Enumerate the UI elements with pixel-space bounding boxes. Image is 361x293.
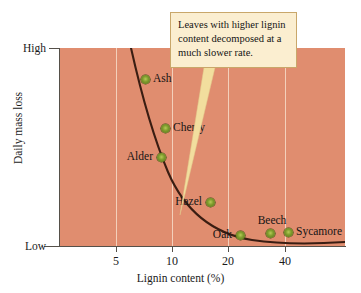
data-point-cherry	[161, 124, 170, 133]
x-tick-20	[228, 247, 229, 252]
data-point-alder	[157, 153, 166, 162]
y-tick-label-low: Low	[25, 241, 46, 253]
y-tick-low	[49, 246, 60, 247]
data-point-label-alder: Alder	[127, 151, 153, 163]
data-point-hazel	[206, 198, 215, 207]
annotation-callout: Leaves with higher lignin content decomp…	[170, 12, 297, 68]
y-axis-title: Daily mass loss	[12, 73, 24, 183]
y-tick-high	[49, 48, 60, 49]
data-point-oak	[236, 231, 245, 240]
annotation-text: Leaves with higher lignin content decomp…	[178, 19, 286, 58]
x-tick-label-5: 5	[101, 255, 131, 267]
data-point-ash	[141, 75, 150, 84]
x-tick-40	[285, 247, 286, 252]
trend-curve	[60, 48, 345, 246]
plot-area	[60, 48, 345, 246]
data-point-label-oak: Oak	[213, 229, 232, 241]
x-tick-label-40: 40	[270, 255, 300, 267]
chart-figure: High Low 5 10 20 40 Lignin content (%) D…	[0, 0, 361, 293]
data-point-label-sycamore: Sycamore	[296, 226, 342, 238]
data-point-beech	[266, 229, 275, 238]
data-point-label-ash: Ash	[153, 73, 172, 85]
x-tick-label-20: 20	[213, 255, 243, 267]
x-axis-line	[44, 246, 346, 247]
y-tick-label-high: High	[23, 43, 46, 55]
x-tick-5	[116, 247, 117, 252]
x-axis-title: Lignin content (%)	[0, 272, 361, 284]
data-point-label-cherry: Cherry	[173, 122, 205, 134]
data-point-sycamore	[284, 228, 293, 237]
x-tick-10	[172, 247, 173, 252]
data-point-label-hazel: Hazel	[175, 196, 202, 208]
x-tick-label-10: 10	[157, 255, 187, 267]
data-point-label-beech: Beech	[258, 215, 287, 227]
y-axis-line	[59, 48, 60, 247]
